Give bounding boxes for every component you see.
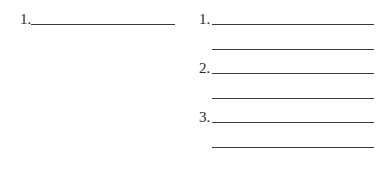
right-item-2-blank-line-1 — [212, 73, 374, 74]
right-item-1-blank-line-2 — [212, 49, 374, 50]
left-item-1-number: 1. — [20, 12, 31, 27]
left-item-1-blank — [31, 24, 175, 25]
right-item-2-number: 2. — [199, 61, 210, 76]
right-item-1-number: 1. — [199, 12, 210, 27]
right-item-3-blank-line-2 — [212, 147, 374, 148]
right-item-1-blank-line-1 — [212, 24, 374, 25]
right-item-3-blank-line-1 — [212, 122, 374, 123]
right-item-3-number: 3. — [199, 110, 210, 125]
right-item-2-blank-line-2 — [212, 98, 374, 99]
